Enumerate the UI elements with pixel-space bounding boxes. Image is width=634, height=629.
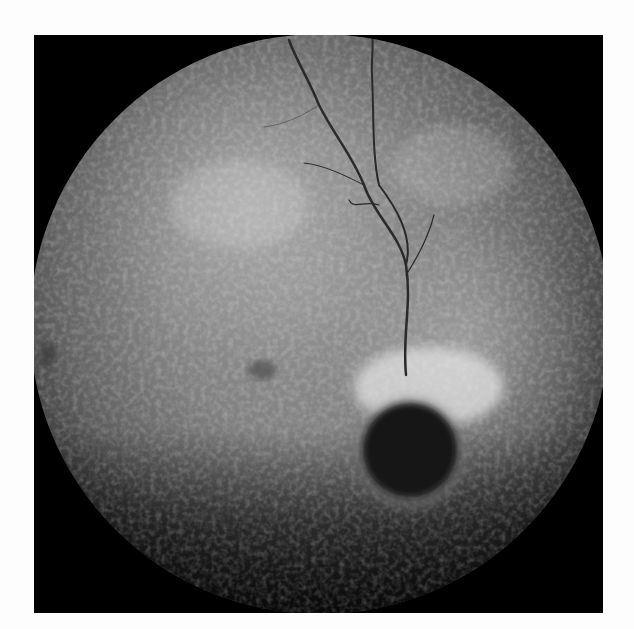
bright-patch [169,160,309,250]
dark-lesion [363,403,457,497]
dark-spot-edge [40,343,56,367]
bright-patch [394,125,514,205]
retinal-texture [34,35,603,613]
retina-features [34,35,603,613]
fundus-image-frame [34,35,603,613]
dark-spot [248,360,276,380]
